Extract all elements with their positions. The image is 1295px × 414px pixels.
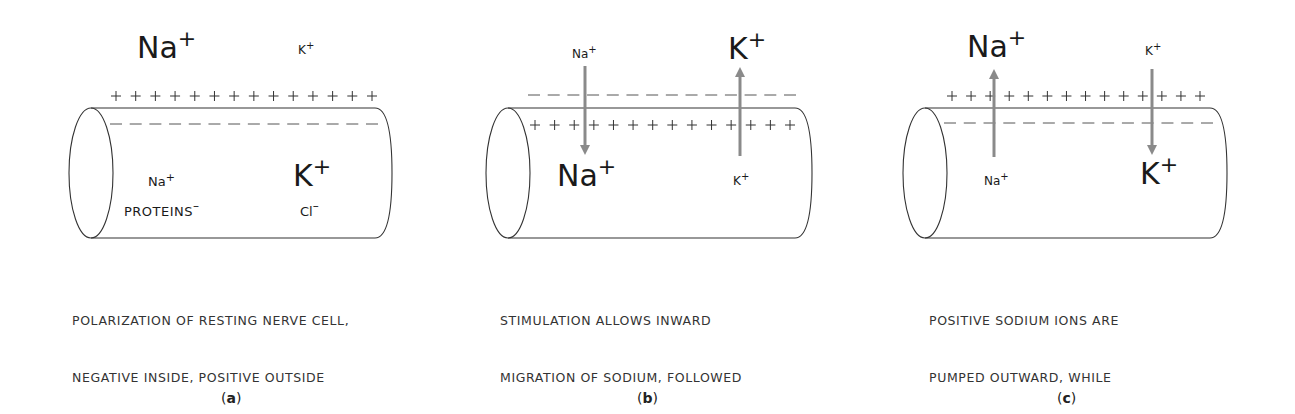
cylinder-body-c	[925, 108, 1227, 238]
proteins-label-a: PROTEINS–	[124, 199, 200, 219]
caption-line: POSITIVE SODIUM IONS ARE	[929, 311, 1189, 330]
plus-charge	[1023, 91, 1033, 101]
plus-charge	[288, 91, 298, 101]
plus-charge	[1119, 91, 1129, 101]
ion-k-outside-a: K+	[298, 40, 314, 57]
caption-line: POLARIZATION OF RESTING NERVE CELL,	[72, 311, 349, 330]
cylinder-body-b	[508, 108, 812, 238]
plus-charge	[746, 120, 756, 130]
panel-label-b: (b)	[637, 390, 658, 406]
caption-line: STIMULATION ALLOWS INWARD	[500, 311, 742, 330]
ion-k-inside-c: K+	[1140, 152, 1178, 191]
plus-charge	[367, 91, 377, 101]
outside-charges-a	[111, 91, 377, 101]
plus-charge	[1042, 91, 1052, 101]
ion-na-outside-c: Na+	[967, 25, 1026, 64]
outside-charges-c	[947, 91, 1205, 101]
plus-charge	[229, 91, 239, 101]
ion-k-outside-b: K+	[728, 27, 766, 66]
ion-k-outside-c: K+	[1145, 41, 1161, 58]
caption-line: NEGATIVE INSIDE, POSITIVE OUTSIDE	[72, 368, 349, 387]
plus-charge	[308, 91, 318, 101]
cylinder-c	[903, 108, 1227, 238]
plus-charge	[947, 91, 957, 101]
plus-charge	[1081, 91, 1091, 101]
panel-b: Na+ Na+ K+ K+	[486, 27, 812, 238]
plus-charge	[1100, 91, 1110, 101]
plus-charge	[1157, 91, 1167, 101]
caption-line: PUMPED OUTWARD, WHILE	[929, 368, 1189, 387]
plus-charge	[785, 120, 795, 130]
plus-charge	[1195, 91, 1205, 101]
ion-na-inside-a: Na+	[148, 171, 175, 189]
inside-charges-b	[530, 120, 795, 130]
plus-charge	[111, 91, 121, 101]
plus-charge	[589, 120, 599, 130]
plus-charge	[648, 120, 658, 130]
panel-label-a: (a)	[221, 390, 241, 406]
plus-charge	[1004, 91, 1014, 101]
cylinder-end-b	[486, 108, 530, 238]
caption-b: STIMULATION ALLOWS INWARD MIGRATION OF S…	[500, 273, 742, 414]
plus-charge	[966, 91, 976, 101]
plus-charge	[707, 120, 717, 130]
plus-charge	[726, 120, 736, 130]
plus-charge	[131, 91, 141, 101]
plus-charge	[628, 120, 638, 130]
ion-na-outside-b: Na+	[572, 44, 597, 61]
panel-label-c: (c)	[1057, 390, 1076, 406]
plus-charge	[328, 91, 338, 101]
ion-na-inside-c: Na+	[984, 171, 1009, 188]
ion-na-inside-b: Na+	[557, 154, 616, 193]
plus-charge	[150, 91, 160, 101]
plus-charge	[190, 91, 200, 101]
plus-charge	[550, 120, 560, 130]
plus-charge	[765, 120, 775, 130]
plus-charge	[687, 120, 697, 130]
plus-charge	[347, 91, 357, 101]
plus-charge	[608, 120, 618, 130]
panel-a: Na+ K+ Na+ K+ PROTEINS– Cl–	[69, 26, 392, 238]
ion-k-inside-a: K+	[293, 154, 331, 193]
cylinder-a	[69, 108, 392, 238]
panel-c: Na+ Na+ K+ K+	[903, 25, 1227, 238]
plus-charge	[249, 91, 259, 101]
plus-charge	[569, 120, 579, 130]
plus-charge	[269, 91, 279, 101]
caption-a: POLARIZATION OF RESTING NERVE CELL, NEGA…	[72, 273, 349, 414]
ion-k-inside-b: K+	[733, 171, 749, 188]
caption-line: MIGRATION OF SODIUM, FOLLOWED	[500, 368, 742, 387]
cylinder-end-a	[69, 108, 113, 238]
ion-na-outside-a: Na+	[137, 26, 196, 65]
chloride-label-a: Cl–	[300, 199, 319, 219]
cylinder-end-c	[903, 108, 947, 238]
plus-charge	[1138, 91, 1148, 101]
plus-charge	[530, 120, 540, 130]
plus-charge	[209, 91, 219, 101]
plus-charge	[667, 120, 677, 130]
plus-charge	[170, 91, 180, 101]
plus-charge	[1061, 91, 1071, 101]
plus-charge	[1176, 91, 1186, 101]
